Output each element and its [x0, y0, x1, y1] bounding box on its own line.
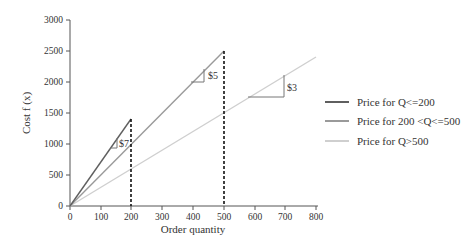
x-tick-label: 0 — [68, 212, 73, 222]
series-line-q-gt-500 — [70, 57, 316, 206]
y-tick-label: 3000 — [44, 15, 63, 25]
legend-label: Price for Q<=200 — [357, 96, 435, 108]
legend-swatch — [325, 140, 349, 142]
x-tick-label: 700 — [278, 212, 293, 222]
y-tick-label: 1500 — [44, 108, 63, 118]
y-tick-label: 0 — [58, 201, 63, 211]
x-tick-label: 600 — [248, 212, 263, 222]
slope-triangle-3 — [248, 75, 284, 97]
x-tick-label: 800 — [309, 212, 324, 222]
legend-swatch — [325, 120, 349, 122]
x-tick-label: 500 — [217, 212, 232, 222]
y-tick-label: 2000 — [44, 77, 63, 87]
slope-annotation-3: $3 — [287, 82, 297, 93]
x-tick-label: 300 — [155, 212, 170, 222]
x-axis-label: Order quantity — [161, 223, 226, 235]
slope-annotation-5: $5 — [208, 70, 218, 81]
y-tick-label: 1000 — [44, 139, 63, 149]
y-tick-label: 2500 — [44, 46, 63, 56]
y-tick-label: 500 — [49, 170, 64, 180]
legend-item-200-500: Price for 200 <Q<=500 — [325, 114, 460, 128]
legend-swatch — [325, 101, 349, 103]
x-tick-label: 200 — [124, 212, 139, 222]
series-line-q-le-200 — [70, 119, 131, 206]
x-tick-label: 100 — [94, 212, 109, 222]
y-ticks: 0 500 1000 1500 2000 2500 3000 — [44, 15, 70, 211]
legend-label: Price for 200 <Q<=500 — [357, 115, 460, 127]
series-line-200-500 — [70, 51, 224, 206]
legend-item-q-le-200: Price for Q<=200 — [325, 95, 435, 109]
y-axis-label: Cost f (x) — [20, 92, 33, 135]
x-ticks: 0 100 200 300 400 500 600 700 800 — [68, 206, 324, 222]
legend-label: Price for Q>500 — [357, 135, 429, 147]
legend-item-q-gt-500: Price for Q>500 — [325, 134, 429, 148]
slope-triangle-5 — [191, 69, 204, 82]
x-tick-label: 400 — [186, 212, 201, 222]
slope-annotation-7: $7 — [119, 138, 129, 149]
